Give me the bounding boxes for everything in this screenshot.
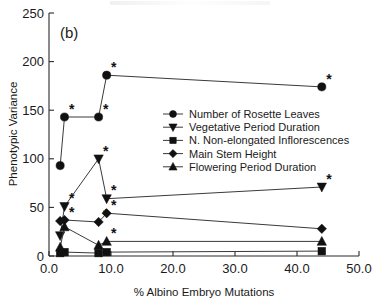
square-data-marker [103, 248, 111, 256]
significance-asterisk: * [111, 59, 117, 75]
circle-data-marker [95, 113, 103, 121]
legend-diamond-icon [169, 150, 177, 158]
x-tick-label: 40.0 [284, 261, 309, 276]
circle-data-marker [56, 162, 64, 170]
significance-asterisk: * [111, 225, 117, 241]
x-axis-label: % Albino Embryo Mutations [134, 286, 275, 298]
legend-triangle-down-icon [169, 124, 177, 132]
x-tick-label: 20.0 [160, 261, 185, 276]
legend-triangle-up-icon [169, 162, 177, 170]
significance-asterisk: * [326, 71, 332, 87]
legend-item-2: Vegetative Period Duration [163, 121, 320, 133]
phenotypic-variance-scatter-chart: 050100150200250 0.010.020.030.040.050.0 … [0, 0, 376, 307]
legend-label: Vegetative Period Duration [189, 121, 320, 133]
x-tick-label: 0.0 [40, 261, 58, 276]
significance-asterisk: * [326, 171, 332, 187]
significance-asterisk: * [69, 101, 75, 117]
y-tick-label: 100 [22, 151, 44, 166]
triangle-down-data-marker [94, 155, 103, 164]
legend-circle-icon [170, 111, 177, 118]
figure-panel-b: 050100150200250 0.010.020.030.040.050.0 … [0, 0, 376, 307]
triangle-down-data-marker [102, 195, 111, 204]
triangle-up-data-marker [317, 236, 326, 245]
circle-data-marker [103, 71, 111, 79]
triangle-up-data-marker [102, 236, 111, 245]
x-tick-label: 30.0 [222, 261, 247, 276]
legend-square-icon [170, 137, 176, 143]
legend-label: Main Stem Height [189, 148, 276, 160]
y-axis-label: Phenotypic Variance [7, 82, 19, 187]
series-main-stem-height: *** [55, 197, 326, 233]
chart-legend: Number of Rosette LeavesVegetative Perio… [163, 108, 350, 173]
square-data-marker [95, 249, 103, 257]
x-tick-label: 10.0 [98, 261, 123, 276]
legend-item-1: Number of Rosette Leaves [163, 108, 320, 120]
triangle-up-data-marker [94, 240, 103, 249]
y-tick-label: 200 [22, 54, 44, 69]
legend-label: Flowering Period Duration [189, 161, 316, 173]
legend-label: Number of Rosette Leaves [189, 108, 320, 120]
circle-data-marker [60, 113, 68, 121]
circle-data-marker [318, 83, 326, 91]
y-tick-label: 50 [30, 200, 44, 215]
significance-asterisk: * [103, 143, 109, 159]
legend-item-4: Main Stem Height [163, 148, 276, 160]
significance-asterisk: * [103, 101, 109, 117]
y-tick-label: 250 [22, 6, 44, 21]
legend-item-3: N. Non-elongated Inflorescences [163, 134, 350, 146]
triangle-down-data-marker [60, 203, 69, 212]
y-tick-label: 150 [22, 103, 44, 118]
significance-asterisk: * [111, 197, 117, 213]
significance-asterisk: * [69, 204, 75, 220]
legend-label: N. Non-elongated Inflorescences [189, 134, 350, 146]
legend-item-5: Flowering Period Duration [163, 161, 316, 173]
square-data-marker [318, 247, 326, 255]
triangle-up-data-marker [55, 242, 64, 251]
panel-label: (b) [60, 24, 78, 41]
x-tick-label: 50.0 [346, 261, 371, 276]
diamond-data-marker [317, 224, 326, 233]
